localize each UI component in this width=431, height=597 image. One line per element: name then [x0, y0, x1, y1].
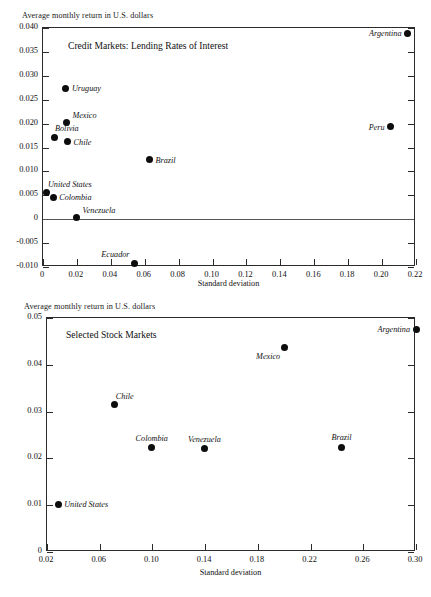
y-tick-mark — [43, 52, 49, 53]
data-point-label: Peru — [369, 123, 385, 132]
y-tick-mark-right — [408, 243, 414, 244]
data-point-label: Argentina — [369, 29, 401, 38]
x-tick-label: 0.26 — [342, 555, 382, 564]
data-point-label: Colombia — [59, 193, 91, 202]
y-tick-label: 0.015 — [4, 142, 38, 151]
plot-frame-credit-markets: ArgentinaPeruUruguayMexicoBoliviaChileBr… — [42, 27, 415, 266]
y-tick-mark-right — [408, 458, 414, 459]
y-tick-label: 0.025 — [4, 94, 38, 103]
data-point[interactable] — [131, 260, 138, 267]
x-tick-mark — [47, 544, 48, 550]
data-point[interactable] — [111, 401, 118, 408]
data-point[interactable] — [64, 138, 71, 145]
y-tick-mark-right — [408, 552, 414, 553]
data-point-label: Argentina — [378, 325, 410, 334]
y-tick-label: 0.02 — [8, 452, 42, 461]
y-tick-mark-right — [408, 76, 414, 77]
x-tick-mark — [382, 259, 383, 265]
x-tick-label: 0.30 — [395, 555, 431, 564]
y-tick-label: 0.05 — [8, 312, 42, 321]
x-tick-mark — [179, 259, 180, 265]
data-point[interactable] — [51, 134, 58, 141]
x-tick-mark — [314, 259, 315, 265]
x-tick-label: 0.06 — [79, 555, 119, 564]
x-tick-label: 0.18 — [237, 555, 277, 564]
y-tick-mark — [43, 76, 49, 77]
y-tick-label: 0.005 — [4, 189, 38, 198]
y-tick-mark — [47, 505, 53, 506]
y-axis-caption-top: Average monthly return in U.S. dollars — [22, 11, 153, 20]
x-tick-mark — [152, 544, 153, 550]
x-tick-mark — [246, 259, 247, 265]
data-point[interactable] — [281, 344, 288, 351]
data-point-label: Venezuela — [83, 206, 116, 215]
y-tick-label: 0.035 — [4, 46, 38, 55]
y-tick-mark — [47, 318, 53, 319]
data-point[interactable] — [413, 326, 420, 333]
y-tick-label: -0.005 — [4, 237, 38, 246]
y-tick-mark — [43, 148, 49, 149]
data-point[interactable] — [55, 501, 62, 508]
x-tick-mark — [77, 259, 78, 265]
y-tick-mark-right — [408, 195, 414, 196]
y-tick-label: 0 — [4, 213, 38, 222]
x-tick-label: 0.14 — [184, 555, 224, 564]
data-point[interactable] — [62, 85, 69, 92]
y-tick-mark — [47, 365, 53, 366]
y-tick-mark — [47, 412, 53, 413]
data-point[interactable] — [404, 30, 411, 37]
x-tick-label: 0.02 — [26, 555, 66, 564]
x-tick-label: 0.10 — [131, 555, 171, 564]
data-point-label: Venezuela — [188, 435, 221, 444]
y-axis-caption-bottom: Average monthly return in U.S. dollars — [24, 302, 155, 311]
data-point[interactable] — [387, 123, 394, 130]
y-tick-label: -0.010 — [4, 261, 38, 270]
y-tick-mark-right — [408, 318, 414, 319]
y-tick-mark-right — [408, 505, 414, 506]
y-tick-label: 0.020 — [4, 118, 38, 127]
x-tick-mark — [43, 259, 44, 265]
y-tick-mark — [43, 243, 49, 244]
data-point[interactable] — [338, 444, 345, 451]
y-tick-mark-right — [408, 171, 414, 172]
y-tick-label: 0 — [8, 546, 42, 555]
y-tick-mark — [43, 100, 49, 101]
y-tick-mark-right — [408, 412, 414, 413]
y-tick-label: 0.03 — [8, 406, 42, 415]
data-point-label: United States — [48, 180, 92, 189]
data-point[interactable] — [146, 156, 153, 163]
y-tick-mark-right — [408, 365, 414, 366]
data-point[interactable] — [50, 194, 57, 201]
x-tick-mark — [205, 544, 206, 550]
data-point-label: Mexico — [256, 352, 280, 361]
y-tick-mark — [43, 267, 49, 268]
x-tick-mark — [258, 544, 259, 550]
y-tick-mark-right — [408, 124, 414, 125]
x-tick-mark — [311, 544, 312, 550]
x-tick-label: 0.22 — [290, 555, 330, 564]
data-point[interactable] — [201, 445, 208, 452]
data-point-label: United States — [64, 500, 108, 509]
data-point-label: Colombia — [136, 434, 168, 443]
y-tick-mark-right — [408, 148, 414, 149]
data-point-label: Chile — [74, 138, 92, 147]
data-point-label: Ecuador — [101, 250, 129, 259]
data-point-label: Bolivia — [55, 124, 79, 133]
x-tick-mark — [280, 259, 281, 265]
y-tick-mark-right — [408, 52, 414, 53]
data-point[interactable] — [148, 444, 155, 451]
x-tick-mark — [213, 259, 214, 265]
y-tick-mark — [47, 552, 53, 553]
x-tick-mark — [348, 259, 349, 265]
x-tick-label: 0.22 — [395, 270, 431, 279]
x-axis-title-credit-markets: Standard deviation — [42, 279, 415, 288]
x-tick-mark — [100, 544, 101, 550]
data-point[interactable] — [73, 214, 80, 221]
y-tick-label: 0.01 — [8, 499, 42, 508]
x-axis-title-stock-markets: Standard deviation — [46, 568, 415, 577]
y-tick-mark-right — [408, 28, 414, 29]
zero-reference-line — [43, 219, 414, 220]
y-tick-mark-right — [408, 100, 414, 101]
data-point-label: Brazil — [332, 433, 352, 442]
x-tick-mark — [416, 259, 417, 265]
